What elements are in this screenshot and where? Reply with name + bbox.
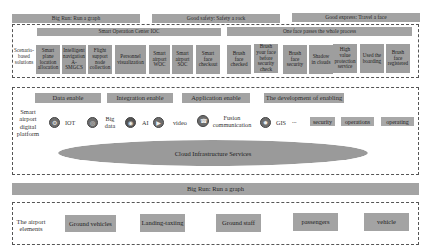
solution-tile: Personnel visualization [115, 45, 146, 74]
banner-good-safety-label: Good safety: Safety a rock [187, 16, 246, 22]
video-icon: ▶ [153, 117, 164, 128]
tech-label-ai: AI [142, 120, 149, 127]
solution-tile: Used the boarding [360, 44, 384, 73]
banner-big-run-label: Big Run: Run a graph [52, 16, 100, 22]
cloud-infrastructure-ellipse: Cloud Infrastructure Services [58, 140, 368, 166]
banner-good-express: Good express: Travel a face [292, 13, 420, 22]
tile-label: Brush your face before security check [255, 44, 277, 73]
solution-tile: Intelligent navigation A-SMGCS [62, 45, 86, 74]
element-passengers: passengers [293, 213, 338, 231]
tech-label-big-data: Big data [104, 116, 116, 130]
elements-side-label: The airport elements [14, 218, 48, 233]
chip-label: operating [386, 119, 409, 125]
tile-label: Smart airport WOC [150, 51, 169, 68]
element-label: vehicle [377, 218, 396, 225]
solution-tile: Brush face checked [227, 45, 251, 74]
tech-label-iot: IOT [65, 120, 75, 127]
tile-label: Smart face checkout [197, 51, 219, 68]
banner-good-express-label: Good express: Travel a face [325, 15, 386, 21]
element-label: Ground staff [222, 219, 255, 226]
tile-label: High value protection service [334, 47, 356, 70]
tile-label: Smart airport SOC [173, 51, 192, 68]
tech-label-fusion-communication: Fusion communication [210, 115, 254, 129]
element-ground-vehicles: Ground vehicles [65, 215, 116, 232]
enabler-data: Data enable [35, 93, 101, 103]
enabler-development: The development of enabling [264, 93, 344, 103]
smart-operation-center: Smart Operation Center IOC [37, 28, 221, 36]
solution-tile: Smart airport WOC [149, 45, 170, 74]
banner-good-safety: Good safety: Safety a rock [152, 14, 280, 23]
one-face-process-label: One face passes the whole process [283, 29, 356, 35]
tile-label: Smart plane location allocation [37, 48, 59, 71]
solution-tile: High value protection service [333, 44, 357, 73]
communication-icon: ☎ [197, 115, 209, 127]
chip-security: security [310, 117, 335, 126]
enabler-label: Data enable [53, 95, 84, 102]
iot-icon: ⚙ [49, 117, 60, 128]
solution-tile: Brush face security [283, 45, 307, 74]
banner-big-run: Big Run: Run a graph [12, 14, 140, 23]
solution-tile: Smart face checkout [196, 45, 220, 74]
gis-icon: ✹ [260, 117, 271, 128]
solution-tile: Brush face registered [386, 44, 410, 73]
element-label: Ground vehicles [69, 220, 112, 227]
big-data-icon: ◎ [87, 117, 98, 128]
chip-label: security [313, 119, 332, 125]
tile-label: Personnel visualization [116, 54, 145, 66]
element-vehicle: vehicle [364, 213, 409, 231]
platform-side-label: Smart airport digital platform [14, 108, 42, 138]
solution-tile: Flight support node collection [88, 45, 112, 74]
element-label: Landing-taxiing [142, 219, 184, 226]
enabler-application: Application enable [182, 93, 250, 103]
chip-label: operations [345, 119, 370, 125]
enabler-integration: Integration enable [107, 93, 173, 103]
solution-tile: Shadow in clouds [309, 45, 333, 74]
ai-icon: ◉ [125, 117, 136, 128]
solution-tile: Smart plane location allocation [36, 45, 60, 74]
element-landing-taxiing: Landing-taxiing [140, 214, 185, 232]
tile-label: Brush face security [284, 51, 306, 68]
element-label: passengers [301, 218, 329, 225]
enabler-label: Application enable [191, 95, 240, 102]
solution-tile: Smart airport SOC [172, 45, 193, 74]
tile-label: Shadow in clouds [310, 54, 332, 66]
chip-operating: operating [381, 117, 414, 126]
solution-tile: Brush your face before security check [254, 44, 278, 73]
tech-label-video: video [173, 120, 187, 127]
solutions-side-label: Scenario-based solutions [12, 48, 36, 66]
chip-operations: operations [341, 117, 374, 126]
cloud-infrastructure-label: Cloud Infrastructure Services [175, 150, 252, 157]
tile-label: Flight support node collection [89, 48, 111, 71]
big-run-bar-label: Big Run: Run a graph [187, 186, 244, 193]
big-run-bar: Big Run: Run a graph [12, 183, 419, 195]
tile-label: Intelligent navigation A-SMGCS [63, 48, 85, 71]
ellipsis-text: ... [292, 118, 297, 125]
tile-label: Used the boarding [361, 53, 383, 65]
enabler-label: Integration enable [116, 95, 163, 102]
enabler-label: The development of enabling [266, 95, 342, 102]
tile-label: Brush face registered [387, 50, 409, 67]
tech-label-gis: GIS [276, 120, 286, 127]
one-face-process: One face passes the whole process [227, 27, 412, 36]
element-ground-staff: Ground staff [216, 214, 261, 232]
tile-label: Brush face checked [228, 51, 250, 68]
smart-operation-center-label: Smart Operation Center IOC [98, 29, 159, 35]
